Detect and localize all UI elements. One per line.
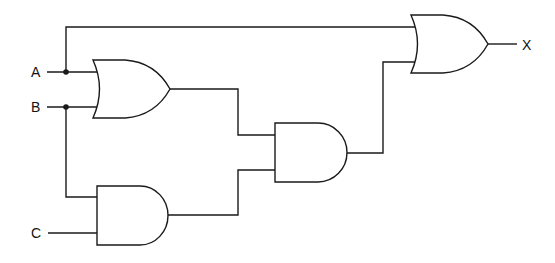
junction-b [63,104,69,110]
wire-and1-to-and2 [167,170,275,215]
and-gate-2 [275,123,347,182]
wire-or1-to-and2 [170,89,275,135]
logic-circuit-diagram: A B C X [0,0,555,263]
input-label-a: A [31,64,41,80]
wire-b-to-and1 [66,107,97,197]
junction-a [63,69,69,75]
or-gate-2 [411,15,488,73]
input-label-b: B [31,99,40,115]
and-gate-1 [97,186,168,245]
input-label-c: C [31,225,41,241]
or-gate-1 [93,60,170,118]
output-label-x: X [522,37,532,53]
wire-and2-to-or2 [347,62,415,153]
